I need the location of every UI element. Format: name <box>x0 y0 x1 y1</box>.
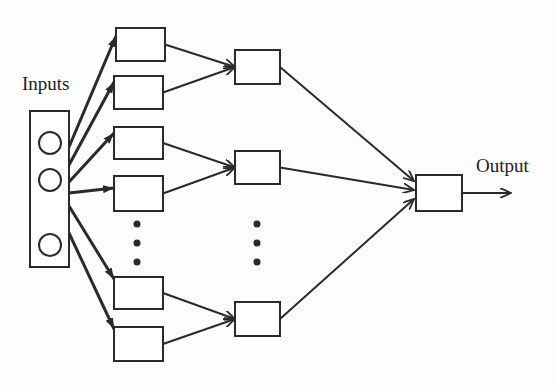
layer1-ellipsis-dot <box>134 221 141 228</box>
layer2-ellipsis-dot <box>254 259 261 266</box>
hidden1-to-hidden2-arrow <box>163 168 235 194</box>
hidden-layer1-node <box>114 127 163 159</box>
hidden-layer1-node <box>116 28 165 61</box>
hidden1-to-hidden2-arrow <box>163 67 235 93</box>
output-node <box>416 175 462 211</box>
hidden-layer2-node <box>235 151 280 184</box>
input-to-hidden-arrow <box>69 206 114 279</box>
input-layer-box <box>30 111 69 267</box>
hidden2-to-output-arrow <box>280 67 414 181</box>
output-label: Output <box>476 155 529 177</box>
hidden-layer1-node <box>114 327 163 361</box>
hidden1-to-hidden2-arrow <box>163 319 235 344</box>
hidden-layer1-node <box>114 176 163 211</box>
layer1-ellipsis-dot <box>134 240 141 247</box>
input-to-hidden-arrow <box>69 233 114 329</box>
layer2-ellipsis-dot <box>254 240 261 247</box>
hidden1-to-hidden2-arrow <box>165 45 235 68</box>
nodes <box>30 28 462 361</box>
hidden-layer2-node <box>235 50 280 84</box>
network-graph <box>0 0 555 387</box>
hidden-layer2-node <box>235 302 280 336</box>
hidden2-to-output-arrow <box>280 199 414 319</box>
input-to-hidden-arrow <box>69 188 114 193</box>
hidden2-to-output-arrow <box>280 168 414 191</box>
hidden1-to-hidden2-arrow <box>163 293 235 319</box>
layer2-ellipsis-dot <box>254 221 261 228</box>
neural-network-diagram: Inputs Output <box>0 0 555 387</box>
layer1-ellipsis-dot <box>134 259 141 266</box>
hidden-layer1-node <box>114 277 163 309</box>
hidden-layer1-node <box>114 76 163 109</box>
input-to-hidden-arrow <box>69 133 114 182</box>
hidden1-to-hidden2-arrow <box>163 143 235 168</box>
inputs-label: Inputs <box>22 73 70 95</box>
